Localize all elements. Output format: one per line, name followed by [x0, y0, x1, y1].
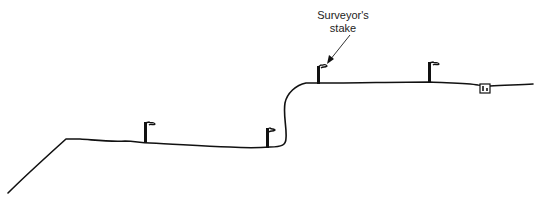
terrain-profile-drawing — [0, 0, 543, 207]
annotation-label-line1: Surveyor's — [308, 9, 378, 21]
ground-profile-line — [8, 82, 533, 193]
annotation-label-line2: stake — [308, 22, 378, 34]
benchmark-block-icon — [480, 84, 490, 93]
surveyor-stake-4-icon — [428, 62, 439, 82]
annotation-arrow-icon — [327, 35, 350, 64]
surveyor-stake-1-icon — [144, 122, 155, 143]
surveyor-stake-3-icon — [317, 65, 327, 84]
surveyor-stake-2-icon — [266, 128, 275, 148]
